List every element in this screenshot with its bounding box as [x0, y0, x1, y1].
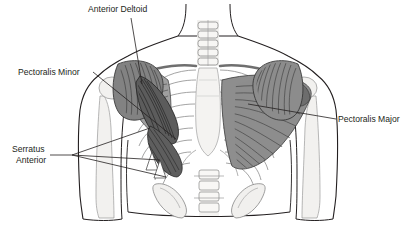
label-serratus-anterior-line1: Serratus	[12, 144, 44, 154]
cervical-spine	[197, 20, 219, 66]
sternum	[196, 68, 221, 156]
lumbar-spine	[194, 170, 224, 216]
label-anterior-deltoid: Anterior Deltoid	[88, 4, 147, 14]
leader-serratus-2	[72, 155, 160, 160]
label-serratus-anterior-line2: Anterior	[16, 155, 46, 165]
anatomy-diagram-canvas: Anterior Deltoid Pectoralis Minor Serrat…	[0, 0, 416, 229]
label-pectoralis-major: Pectoralis Major	[338, 114, 400, 124]
label-pectoralis-minor: Pectoralis Minor	[18, 67, 80, 77]
anatomy-illustration: Anterior Deltoid Pectoralis Minor Serrat…	[0, 0, 416, 229]
